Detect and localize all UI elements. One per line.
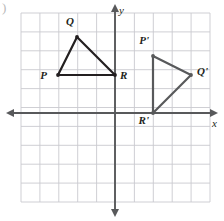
y-axis-label: y bbox=[119, 5, 124, 16]
vertex-dot bbox=[75, 35, 79, 39]
vertex-dot bbox=[113, 73, 117, 77]
x-axis-arrow-right bbox=[210, 109, 218, 117]
vertex-dot bbox=[56, 73, 60, 77]
vertex-dot bbox=[151, 111, 155, 115]
point-label-P: P bbox=[40, 70, 47, 81]
x-axis-arrow-left bbox=[6, 109, 14, 117]
axis-lines bbox=[6, 4, 218, 217]
vertex-dot bbox=[189, 73, 193, 77]
point-label-P-prime: P' bbox=[139, 35, 149, 46]
coordinate-plane bbox=[0, 0, 224, 221]
figure-canvas: ) PQRP'Q'R' x y bbox=[0, 0, 224, 221]
point-label-Q-prime: Q' bbox=[197, 66, 208, 77]
x-axis-label: x bbox=[212, 118, 217, 129]
y-axis-arrow-up bbox=[111, 4, 119, 12]
y-axis-arrow-down bbox=[111, 209, 119, 217]
vertex-dot bbox=[151, 54, 155, 58]
point-label-R: R bbox=[120, 70, 127, 81]
point-label-Q: Q bbox=[66, 16, 74, 27]
point-label-R-prime: R' bbox=[139, 115, 149, 126]
